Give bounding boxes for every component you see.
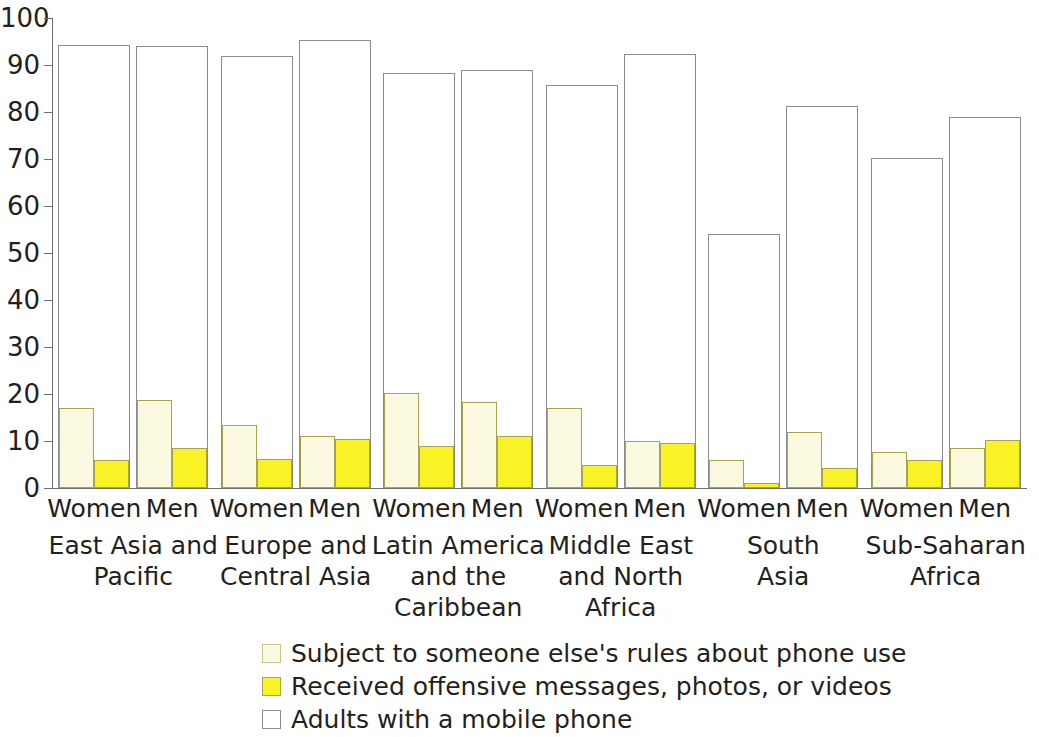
y-tick-label: 100 [0,5,40,31]
bar-group-men [136,18,208,488]
bar-adults-with-mobile-phone [221,56,293,488]
bar-group-women [58,18,130,488]
legend-label: Adults with a mobile phone [291,704,632,735]
bar-group-men [461,18,533,488]
bar-received-offensive-messages [822,468,857,488]
bar-chart: 1009080706050403020100 WomenMenWomenMenW… [0,0,1039,737]
x-label-region: East Asia andPacific [42,530,225,592]
region-label-line: Africa [855,561,1038,592]
bar-subject-to-rules [625,441,660,488]
y-tick-mark [44,347,52,348]
y-axis-tick-labels: 1009080706050403020100 [0,0,40,737]
bar-subject-to-rules [222,425,257,488]
x-label-region: Europe andCentral Asia [205,530,388,592]
y-tick-label: 20 [0,381,40,407]
region-label-line: Middle East [530,530,713,561]
x-label-region: Latin Americaand theCaribbean [367,530,550,623]
bar-adults-with-mobile-phone [708,234,780,488]
region-label-line: South [692,530,875,561]
y-tick-label: 80 [0,99,40,125]
y-tick-mark [44,253,52,254]
x-label-region: SouthAsia [692,530,875,592]
y-tick-mark [44,159,52,160]
y-tick-mark [44,441,52,442]
legend-swatch-outline-icon [262,710,281,729]
bar-subject-to-rules [950,448,985,488]
region-label-line: East Asia and [42,530,225,561]
y-tick-mark [44,206,52,207]
legend-label: Received offensive messages, photos, or … [291,671,892,702]
y-tick-label: 60 [0,193,40,219]
x-label-men: Men [935,492,1035,526]
x-axis-sex-labels: WomenMenWomenMenWomenMenWomenMenWomenMen… [52,492,1027,528]
bar-subject-to-rules [300,436,335,488]
bar-group-men [299,18,371,488]
legend-item: Received offensive messages, photos, or … [262,670,902,703]
y-tick-label: 70 [0,146,40,172]
bar-adults-with-mobile-phone [949,117,1021,488]
bar-received-offensive-messages [94,460,129,488]
y-tick-mark [44,394,52,395]
bar-subject-to-rules [384,393,419,488]
y-tick-label: 50 [0,240,40,266]
bar-group-women [871,18,943,488]
bar-received-offensive-messages [744,483,779,488]
plot-area [52,18,1027,488]
legend-swatch-yellow-icon [262,677,281,696]
bar-subject-to-rules [59,408,94,488]
bar-subject-to-rules [462,402,497,488]
bar-received-offensive-messages [419,446,454,488]
bar-adults-with-mobile-phone [624,54,696,488]
y-tick-label: 10 [0,428,40,454]
y-tick-label: 40 [0,287,40,313]
bar-received-offensive-messages [660,443,695,488]
y-tick-mark [44,112,52,113]
legend-item: Adults with a mobile phone [262,703,902,736]
y-tick-mark [44,488,52,489]
bar-subject-to-rules [872,452,907,488]
y-tick-label: 0 [0,475,40,501]
bar-group-women [383,18,455,488]
bar-subject-to-rules [137,400,172,488]
bar-group-women [708,18,780,488]
bar-received-offensive-messages [582,465,617,489]
region-label-line: Central Asia [205,561,388,592]
bar-group-men [786,18,858,488]
region-label-line: Pacific [42,561,225,592]
x-axis-line [52,488,1027,489]
x-label-region: Middle Eastand NorthAfrica [530,530,713,623]
region-label-line: and North [530,561,713,592]
bar-group-women [546,18,618,488]
region-label-line: Africa [530,592,713,623]
bar-group-men [624,18,696,488]
x-label-region: Sub-SaharanAfrica [855,530,1038,592]
bar-adults-with-mobile-phone [299,40,371,488]
legend-label: Subject to someone else's rules about ph… [291,638,906,669]
y-tick-mark [44,300,52,301]
bar-received-offensive-messages [257,459,292,488]
region-label-line: Caribbean [367,592,550,623]
bar-group-men [949,18,1021,488]
bar-received-offensive-messages [335,439,370,488]
y-tick-label: 90 [0,52,40,78]
bar-adults-with-mobile-phone [871,158,943,488]
bar-received-offensive-messages [907,460,942,488]
region-label-line: Sub-Saharan [855,530,1038,561]
bar-received-offensive-messages [985,440,1020,488]
y-tick-mark [44,65,52,66]
bar-group-women [221,18,293,488]
bar-subject-to-rules [547,408,582,488]
region-label-line: Europe and [205,530,388,561]
chart-legend: Subject to someone else's rules about ph… [262,637,902,736]
bar-received-offensive-messages [172,448,207,488]
y-tick-label: 30 [0,334,40,360]
region-label-line: Latin America [367,530,550,561]
legend-item: Subject to someone else's rules about ph… [262,637,902,670]
region-label-line: and the [367,561,550,592]
bar-subject-to-rules [709,460,744,488]
bar-received-offensive-messages [497,436,532,488]
legend-swatch-pale-icon [262,644,281,663]
x-axis-region-labels: East Asia andPacificEurope andCentral As… [52,530,1027,630]
bar-subject-to-rules [787,432,822,488]
region-label-line: Asia [692,561,875,592]
